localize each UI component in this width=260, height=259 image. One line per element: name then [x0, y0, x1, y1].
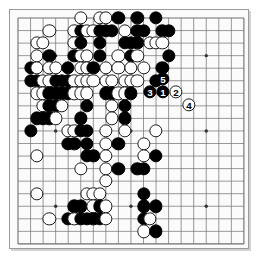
white-stone[interactable]	[105, 112, 118, 125]
black-stone[interactable]	[74, 112, 87, 125]
white-stone[interactable]	[80, 49, 93, 62]
black-stone[interactable]	[149, 225, 162, 238]
white-stone[interactable]	[99, 62, 112, 75]
black-stone[interactable]	[137, 200, 150, 213]
black-stone[interactable]	[149, 11, 162, 24]
white-stone[interactable]	[99, 137, 112, 150]
white-stone[interactable]	[49, 62, 62, 75]
white-stone[interactable]	[43, 24, 56, 37]
white-stone[interactable]	[30, 49, 43, 62]
white-stone[interactable]	[143, 212, 156, 225]
white-stone[interactable]	[74, 11, 87, 24]
black-stone[interactable]	[80, 99, 93, 112]
black-stone[interactable]	[162, 24, 175, 37]
white-stone[interactable]	[156, 36, 169, 49]
move-stone-2[interactable]: 2	[169, 85, 182, 98]
black-stone[interactable]	[112, 162, 125, 175]
black-stone[interactable]	[87, 149, 100, 162]
black-stone[interactable]	[93, 36, 106, 49]
white-stone[interactable]	[118, 24, 131, 37]
stone-layer[interactable]: 31254	[10, 10, 250, 250]
white-stone[interactable]	[93, 187, 106, 200]
move-stone-5[interactable]: 5	[156, 72, 169, 85]
black-stone[interactable]	[131, 36, 144, 49]
black-stone[interactable]	[43, 49, 56, 62]
black-stone[interactable]	[149, 149, 162, 162]
white-stone[interactable]	[74, 162, 87, 175]
white-stone[interactable]	[99, 174, 112, 187]
white-stone[interactable]	[49, 112, 62, 125]
move-number-label: 2	[170, 86, 181, 97]
black-stone[interactable]	[87, 62, 100, 75]
white-stone[interactable]	[99, 124, 112, 137]
black-stone[interactable]	[118, 112, 131, 125]
black-stone[interactable]	[105, 24, 118, 37]
white-stone[interactable]	[105, 99, 118, 112]
black-stone[interactable]	[137, 24, 150, 37]
black-stone[interactable]	[80, 137, 93, 150]
go-board[interactable]: 31254	[9, 9, 249, 249]
black-stone[interactable]	[68, 137, 81, 150]
black-stone[interactable]	[112, 137, 125, 150]
black-stone[interactable]	[62, 62, 75, 75]
white-stone[interactable]	[137, 149, 150, 162]
white-stone[interactable]	[30, 149, 43, 162]
black-stone[interactable]	[124, 87, 137, 100]
black-stone[interactable]	[131, 11, 144, 24]
move-number-label: 5	[157, 73, 168, 84]
white-stone[interactable]	[43, 212, 56, 225]
white-stone[interactable]	[99, 11, 112, 24]
move-stone-4[interactable]: 4	[182, 98, 195, 111]
move-number-label: 4	[183, 99, 194, 110]
go-diagram-root: 31254	[0, 0, 260, 259]
black-stone[interactable]	[149, 200, 162, 213]
white-stone[interactable]	[112, 49, 125, 62]
black-stone[interactable]	[137, 162, 150, 175]
white-stone[interactable]	[137, 225, 150, 238]
white-stone[interactable]	[112, 62, 125, 75]
black-stone[interactable]	[80, 124, 93, 137]
white-stone[interactable]	[105, 74, 118, 87]
white-stone[interactable]	[30, 62, 43, 75]
move-number-label: 1	[157, 86, 168, 97]
white-stone[interactable]	[55, 99, 68, 112]
black-stone[interactable]	[93, 49, 106, 62]
white-stone[interactable]	[149, 124, 162, 137]
white-stone[interactable]	[99, 162, 112, 175]
white-stone[interactable]	[131, 49, 144, 62]
black-stone[interactable]	[24, 124, 37, 137]
move-stone-1[interactable]: 1	[156, 85, 169, 98]
white-stone[interactable]	[87, 74, 100, 87]
white-stone[interactable]	[118, 124, 131, 137]
white-stone[interactable]	[99, 200, 112, 213]
white-stone[interactable]	[124, 62, 137, 75]
move-stone-3[interactable]: 3	[143, 85, 156, 98]
black-stone[interactable]	[118, 99, 131, 112]
black-stone[interactable]	[74, 36, 87, 49]
black-stone[interactable]	[162, 49, 175, 62]
white-stone[interactable]	[137, 137, 150, 150]
black-stone[interactable]	[74, 200, 87, 213]
white-stone[interactable]	[131, 74, 144, 87]
white-stone[interactable]	[80, 87, 93, 100]
move-number-label: 3	[144, 86, 155, 97]
white-stone[interactable]	[30, 187, 43, 200]
white-stone[interactable]	[99, 149, 112, 162]
white-stone[interactable]	[36, 36, 49, 49]
white-stone[interactable]	[137, 62, 150, 75]
black-stone[interactable]	[112, 11, 125, 24]
white-stone[interactable]	[99, 212, 112, 225]
black-stone[interactable]	[137, 187, 150, 200]
